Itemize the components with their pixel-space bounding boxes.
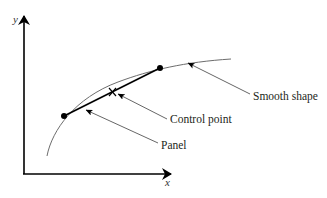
- axes: y x: [12, 13, 171, 188]
- panel-label: Panel: [161, 139, 187, 151]
- control-point-marker: [109, 88, 116, 96]
- control-point-leader: [118, 94, 167, 119]
- panel-endpoint-upper: [157, 65, 163, 71]
- smooth-shape-label: Smooth shape: [253, 90, 318, 103]
- smooth-shape-curve: [47, 59, 231, 156]
- control-point-label: Control point: [170, 113, 232, 126]
- y-axis-label: y: [12, 13, 18, 25]
- x-axis-label: x: [164, 176, 170, 188]
- panel-method-diagram: y x Smooth shape Control point Panel: [0, 0, 327, 198]
- panel-leader: [86, 110, 158, 143]
- panel-endpoint-lower: [61, 113, 67, 119]
- smooth-shape-leader: [188, 63, 250, 94]
